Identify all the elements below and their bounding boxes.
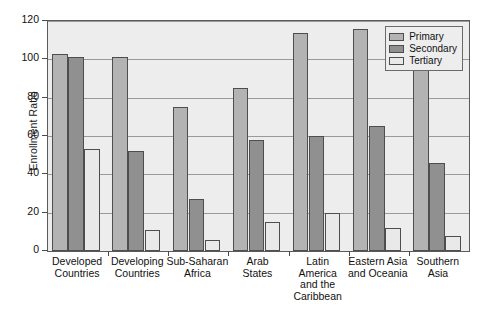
bar-secondary (68, 57, 84, 251)
bar-primary (52, 54, 68, 251)
bar-primary (112, 57, 128, 251)
x-axis-category-label: SouthernAsia (402, 256, 474, 279)
bar-primary (353, 29, 369, 251)
bar-secondary (429, 163, 445, 251)
legend-item-primary: Primary (389, 31, 457, 42)
gridline (48, 21, 469, 22)
y-axis-tick-mark (42, 97, 47, 98)
bar-tertiary (84, 149, 100, 251)
gridline (48, 136, 469, 137)
y-axis-tick-label: 20 (3, 206, 39, 217)
x-axis-label-line: Latin (306, 255, 329, 267)
legend-label-secondary: Secondary (409, 44, 457, 54)
y-axis-tick-mark (42, 20, 47, 21)
legend-label-primary: Primary (409, 32, 443, 42)
x-axis-label-line: and the (300, 278, 335, 290)
x-axis-label-line: Countries (115, 267, 160, 279)
x-axis-label-line: Southern (417, 255, 460, 267)
x-axis-label-line: Arab (246, 255, 268, 267)
legend-label-tertiary: Tertiary (409, 56, 442, 66)
bar-tertiary (385, 228, 401, 251)
y-axis-tick-label: 80 (3, 91, 39, 102)
gridline (48, 98, 469, 99)
y-axis-tick-mark (42, 135, 47, 136)
x-axis-label-line: Asia (428, 267, 448, 279)
y-axis-tick-label: 120 (3, 14, 39, 25)
x-axis-label-line: Africa (184, 267, 211, 279)
y-axis-tick-label: 60 (3, 129, 39, 140)
x-axis-label-line: Countries (55, 267, 100, 279)
y-axis-tick-mark (42, 250, 47, 251)
plot-area: Primary Secondary Tertiary (47, 20, 470, 252)
legend-swatch-tertiary (389, 57, 404, 65)
legend-swatch-secondary (389, 45, 404, 53)
bar-secondary (249, 140, 265, 251)
x-axis-label-line: Developing (111, 255, 164, 267)
bar-tertiary (145, 230, 161, 251)
bar-secondary (128, 151, 144, 251)
bar-secondary (369, 126, 385, 251)
x-axis-label-line: America (298, 267, 337, 279)
y-axis-tick-label: 100 (3, 52, 39, 63)
bar-tertiary (265, 222, 281, 251)
legend-item-tertiary: Tertiary (389, 55, 457, 66)
bar-secondary (189, 199, 205, 251)
bar-primary (293, 33, 309, 252)
bar-primary (173, 107, 189, 251)
legend-item-secondary: Secondary (389, 43, 457, 54)
y-axis-tick-label: 40 (3, 167, 39, 178)
bar-tertiary (325, 213, 341, 251)
bar-secondary (309, 136, 325, 251)
bar-tertiary (445, 236, 461, 251)
bar-chart: Enrollment Ratio Primary Secondary Terti… (0, 0, 479, 312)
y-axis-tick-mark (42, 212, 47, 213)
bar-primary (413, 65, 429, 251)
x-axis-label-line: States (243, 267, 273, 279)
x-axis-label-line: Sub-Saharan (166, 255, 228, 267)
x-axis-label-line: Developed (52, 255, 102, 267)
chart-legend: Primary Secondary Tertiary (385, 26, 463, 71)
y-axis-tick-mark (42, 173, 47, 174)
y-axis-tick-mark (42, 58, 47, 59)
bar-tertiary (205, 240, 221, 252)
y-axis-tick-label: 0 (3, 244, 39, 255)
bar-primary (233, 88, 249, 251)
x-axis-label-line: and Oceania (348, 267, 408, 279)
x-axis-label-line: Eastern Asia (348, 255, 407, 267)
legend-swatch-primary (389, 33, 404, 41)
x-axis-label-line: Caribbean (293, 290, 341, 302)
